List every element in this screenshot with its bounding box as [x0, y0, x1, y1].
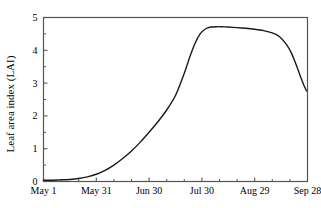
lai-chart: 012345 May 1May 31Jun 30Jul 30Aug 29Sep … [0, 0, 321, 208]
x-tick-label: Sep 28 [294, 185, 321, 196]
y-tick-label: 5 [33, 12, 38, 23]
y-tick-label: 2 [33, 110, 38, 121]
x-tick-label: Jun 30 [136, 185, 162, 196]
x-tick-label: Jul 30 [190, 185, 214, 196]
chart-background [0, 0, 321, 208]
x-tick-label: May 1 [31, 185, 57, 196]
x-tick-label: May 31 [81, 185, 112, 196]
x-tick-label: Aug 29 [240, 185, 270, 196]
y-tick-label: 1 [33, 143, 38, 154]
chart-canvas: 012345 May 1May 31Jun 30Jul 30Aug 29Sep … [0, 0, 321, 208]
y-tick-label: 4 [33, 45, 38, 56]
y-tick-label: 3 [33, 78, 38, 89]
y-axis-title: Leaf area index (LAI) [4, 55, 17, 152]
